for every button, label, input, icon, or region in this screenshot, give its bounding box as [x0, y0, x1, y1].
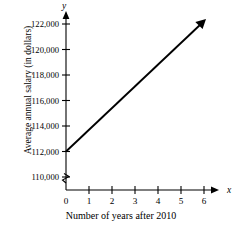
chart-plot-area: 122,000 120,000 118,000 116,000 114,000 …	[0, 0, 242, 230]
x-tick-label: 6	[202, 196, 207, 206]
salary-line-chart: 122,000 120,000 118,000 116,000 114,000 …	[0, 0, 242, 230]
x-tick-label: 1	[87, 196, 92, 206]
x-tick-label: 3	[133, 196, 138, 206]
x-axis-arrowhead	[211, 187, 219, 194]
x-tick-label: 4	[156, 196, 161, 206]
x-axis-title: Number of years after 2010	[0, 210, 242, 221]
x-tick-label: 5	[179, 196, 184, 206]
y-tick-label: 110,000	[31, 172, 59, 182]
x-tick-label: 2	[110, 196, 115, 206]
y-tick-label: 118,000	[31, 70, 59, 80]
y-tick-label: 114,000	[31, 121, 59, 131]
y-tick-label: 116,000	[31, 96, 59, 106]
y-tick-label: 112,000	[31, 147, 59, 157]
y-tick-label: 122,000	[31, 19, 59, 29]
y-axis-arrowhead	[63, 11, 70, 19]
y-axis-letter: y	[61, 1, 67, 11]
y-tick-label: 120,000	[31, 45, 59, 55]
salary-trend-line	[66, 24, 201, 152]
x-tick-label: 0	[64, 196, 69, 206]
x-axis-letter: x	[226, 185, 232, 195]
y-axis-title: Average annual salary (in dollars)	[23, 0, 33, 180]
